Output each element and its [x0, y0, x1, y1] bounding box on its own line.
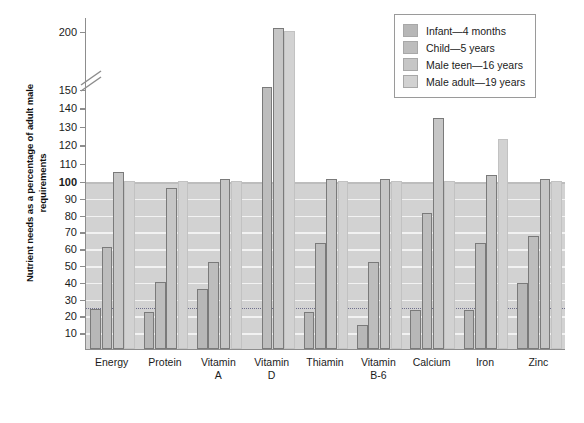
- x-axis-label: Thiamin: [298, 356, 351, 369]
- legend-item: Infant—4 months: [403, 22, 525, 39]
- bar: [326, 179, 337, 349]
- bar: [124, 181, 135, 349]
- y-tick-label: 90: [65, 193, 77, 205]
- legend-label: Infant—4 months: [426, 25, 506, 37]
- bar: [262, 87, 273, 349]
- legend-swatch: [403, 24, 418, 37]
- x-axis-label: Energy: [85, 356, 138, 369]
- bar: [315, 243, 326, 349]
- bar: [551, 181, 562, 349]
- bar-group: [139, 18, 192, 349]
- legend-item: Male adult—19 years: [403, 73, 525, 90]
- bar: [102, 247, 113, 349]
- legend-item: Child—5 years: [403, 39, 525, 56]
- bar: [380, 179, 391, 349]
- y-tick-label: 140: [59, 102, 77, 114]
- bar-group: [299, 18, 352, 349]
- bar: [464, 310, 475, 349]
- bar: [368, 262, 379, 349]
- bar: [338, 181, 349, 349]
- legend-label: Child—5 years: [426, 42, 495, 54]
- bar: [486, 175, 497, 349]
- legend-swatch: [403, 58, 418, 71]
- legend-label: Male adult—19 years: [426, 76, 525, 88]
- x-axis-label: VitaminB-6: [352, 356, 405, 381]
- y-tick-label: 110: [59, 158, 77, 170]
- y-tick-label: 150: [59, 84, 77, 96]
- bar: [197, 289, 208, 349]
- y-tick-label: 70: [65, 226, 77, 238]
- bar: [90, 309, 101, 349]
- bar-group: [193, 18, 246, 349]
- bar: [231, 181, 242, 349]
- x-axis-label: Calcium: [405, 356, 458, 369]
- bar: [144, 312, 155, 349]
- y-tick-label: 20: [65, 310, 77, 322]
- x-axis-label: VitaminA: [192, 356, 245, 381]
- y-tick-label: 130: [59, 121, 77, 133]
- y-tick-label: 60: [65, 243, 77, 255]
- bar: [391, 181, 402, 349]
- bar: [113, 172, 124, 349]
- y-tick-label: 200: [59, 26, 77, 38]
- bar: [155, 282, 166, 349]
- legend-swatch: [403, 41, 418, 54]
- y-tick-label: 80: [65, 210, 77, 222]
- y-tick-label: 10: [65, 327, 77, 339]
- bar: [410, 310, 421, 349]
- chart-legend: Infant—4 monthsChild—5 yearsMale teen—16…: [394, 14, 536, 98]
- bar: [304, 312, 315, 349]
- x-axis-label: VitaminD: [245, 356, 298, 381]
- bar: [528, 236, 539, 349]
- y-tick-label: 100: [59, 176, 77, 188]
- y-axis-title: Nutrient needs as a percentage of adult …: [23, 73, 49, 293]
- y-tick-label: 50: [65, 260, 77, 272]
- y-tick-label: 120: [59, 139, 77, 151]
- x-axis-label: Iron: [458, 356, 511, 369]
- bar-group: [246, 18, 299, 349]
- y-tick-label: 40: [65, 277, 77, 289]
- figure-bar-chart: Nutrient needs as a percentage of adult …: [0, 0, 584, 423]
- legend-label: Male teen—16 years: [426, 59, 523, 71]
- bar: [433, 118, 444, 349]
- bar: [284, 31, 295, 349]
- bar: [178, 181, 189, 349]
- bar: [540, 179, 551, 349]
- bar: [357, 325, 368, 349]
- legend-swatch: [403, 75, 418, 88]
- bar: [498, 139, 509, 349]
- x-axis-label: Zinc: [512, 356, 565, 369]
- bar: [517, 283, 528, 349]
- bar: [475, 243, 486, 349]
- bar: [208, 262, 219, 349]
- bar: [166, 188, 177, 349]
- legend-item: Male teen—16 years: [403, 56, 525, 73]
- axis-break-icon: [79, 68, 105, 94]
- x-axis-label: Protein: [138, 356, 191, 369]
- bar: [220, 179, 231, 349]
- y-tick-label: 30: [65, 294, 77, 306]
- bar: [422, 213, 433, 349]
- bar: [273, 28, 284, 349]
- bar: [444, 181, 455, 349]
